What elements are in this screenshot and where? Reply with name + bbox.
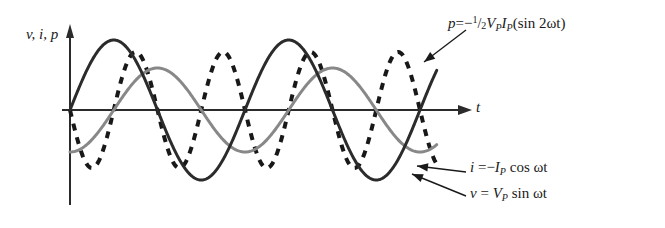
x-axis-label: t — [476, 99, 480, 116]
current-equation-label: i =−IP cos ωt — [470, 159, 548, 177]
power-equation-label: p=−1/2VPIP(sin 2ωt) — [448, 14, 566, 33]
power-lhs: p — [448, 15, 456, 31]
power-trig-term: (sin 2ωt) — [513, 15, 566, 31]
current-amplitude-subscript: P — [500, 166, 506, 177]
current-lhs: i — [470, 159, 474, 175]
current-trig-term: cos ωt — [510, 159, 548, 175]
voltage-amplitude-subscript: P — [502, 192, 508, 203]
voltage-amplitude: V — [493, 185, 502, 201]
waveform-figure: v, i, p t p=−1/2VPIP(sin 2ωt) i =−IP cos… — [0, 0, 665, 228]
leader-arrowhead-p — [424, 52, 435, 62]
leader-arrowhead-i — [417, 163, 428, 171]
current-sign: − — [486, 159, 494, 175]
y-axis-label: v, i, p — [26, 26, 58, 43]
power-voltage-amplitude: V — [486, 15, 495, 31]
x-axis — [62, 105, 472, 115]
voltage-equals: = — [480, 185, 488, 201]
voltage-lhs: v — [470, 185, 477, 201]
voltage-trig-term: sin ωt — [512, 185, 547, 201]
waveform-plot — [0, 0, 665, 228]
power-equals: = — [456, 15, 464, 31]
voltage-equation-label: v = VP sin ωt — [470, 185, 547, 203]
leader-arrowhead-v — [412, 174, 424, 182]
